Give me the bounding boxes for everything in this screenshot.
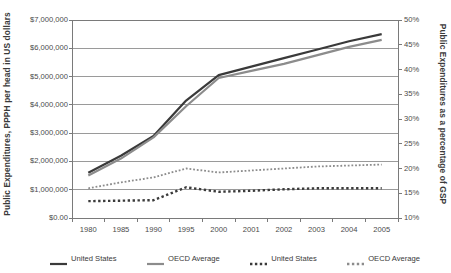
legend-label: United States xyxy=(271,254,317,263)
legend-swatch-icon xyxy=(250,254,267,262)
chart-container: Public Expenditures, PPPH per head in US… xyxy=(0,0,451,273)
legend-label: OECD Average xyxy=(168,254,220,263)
legend-swatch-icon xyxy=(50,254,67,262)
legend-label: United States xyxy=(71,254,117,263)
legend-swatch-icon xyxy=(147,254,164,262)
legend-label: OECD Average xyxy=(368,254,420,263)
legend-entry[interactable]: OECD Average xyxy=(147,254,220,263)
x-axis-tick-marks xyxy=(72,218,398,222)
legend-swatch-icon xyxy=(347,254,364,262)
plot-area xyxy=(0,0,451,273)
chart-legend: United StatesOECD AverageUnited StatesOE… xyxy=(50,250,420,266)
legend-entry[interactable]: OECD Average xyxy=(347,254,420,263)
plot-background xyxy=(72,20,398,218)
legend-entry[interactable]: United States xyxy=(50,254,117,263)
legend-entry[interactable]: United States xyxy=(250,254,317,263)
